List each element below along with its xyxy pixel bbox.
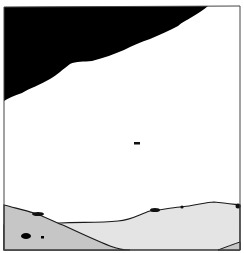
scene-drawing — [0, 0, 244, 253]
illustration-panel — [0, 0, 244, 253]
ridge-dot — [180, 205, 183, 208]
ridge-rock — [150, 208, 160, 212]
rock-small — [41, 236, 44, 239]
sky-speck — [134, 142, 140, 145]
rock-large — [21, 233, 31, 239]
ridge-shadow — [32, 212, 44, 216]
